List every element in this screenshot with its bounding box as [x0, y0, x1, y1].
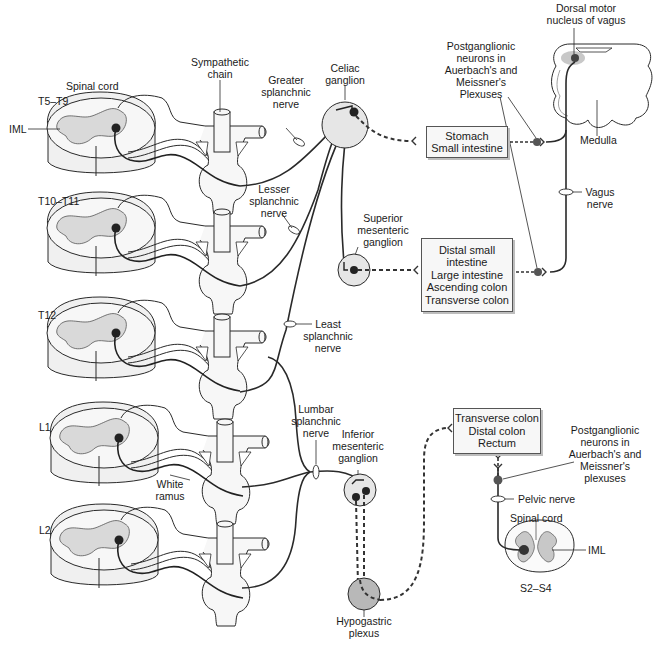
vagus-nerve-label: Vagus nerve	[580, 186, 620, 210]
label-line: splanchnic	[258, 86, 314, 98]
label-line: ganglion	[330, 452, 386, 464]
label-line: Plexuses	[440, 88, 522, 100]
postganglionic-lower-label: Postganglionic neurons in Auerbach's and…	[564, 424, 646, 484]
label-line: Greater	[258, 74, 314, 86]
label-line: Celiac	[320, 62, 370, 74]
label-line: nerve	[300, 342, 356, 354]
medulla-label: Medulla	[580, 134, 617, 146]
superior-mesenteric-label: Superior mesenteric ganglion	[355, 212, 411, 248]
sacral-spinal-cord-label: Spinal cord	[510, 512, 563, 524]
organ-label: Stomach	[427, 130, 507, 143]
inferior-mesenteric-ganglion	[344, 470, 376, 585]
label-line: ganglion	[355, 236, 411, 248]
organ-label: Rectum	[454, 437, 540, 450]
organ-label: Large intestine	[422, 269, 512, 282]
organ-label: Transverse colon	[422, 294, 512, 307]
label-line: neurons in	[564, 436, 646, 448]
lesser-splanchnic-label: Lesser splanchnic nerve	[246, 183, 302, 219]
label-line: Superior	[355, 212, 411, 224]
label-line: ramus	[150, 490, 190, 502]
hypogastric-plexus-label: Hypogastric plexus	[334, 615, 394, 639]
sympathetic-chain-label: Sympathetic chain	[190, 56, 250, 80]
inferior-mesenteric-label: Inferior mesenteric ganglion	[330, 428, 386, 464]
organ-label: Distal colon	[454, 425, 540, 438]
label-line: nerve	[580, 198, 620, 210]
segment-label-l2: L2	[39, 524, 51, 536]
label-line: ganglion	[320, 74, 370, 86]
label-line: plexus	[334, 627, 394, 639]
label-line: Sympathetic	[190, 56, 250, 68]
segment-l2	[50, 504, 269, 626]
label-line: nucleus of vagus	[540, 14, 632, 26]
sacral-segments-label: S2–S4	[520, 582, 552, 594]
organ-label: intestine	[422, 256, 512, 269]
label-line: mesenteric	[355, 224, 411, 236]
label-line: Meissner's	[440, 76, 522, 88]
greater-splanchnic-label: Greater splanchnic nerve	[258, 74, 314, 110]
label-line: Postganglionic	[564, 424, 646, 436]
segment-label-t12: T12	[38, 309, 56, 321]
spinal-cord-label: Spinal cord	[66, 80, 119, 92]
organ-label: Transverse colon	[454, 412, 540, 425]
label-line: Dorsal motor	[540, 2, 632, 14]
superior-mesenteric-ganglion	[338, 247, 418, 286]
least-splanchnic-label: Least splanchnic nerve	[300, 318, 356, 354]
label-line: Inferior	[330, 428, 386, 440]
dorsal-motor-nucleus-label: Dorsal motor nucleus of vagus	[540, 2, 632, 26]
segment-label-t5-t9: T5–T9	[38, 95, 68, 107]
white-ramus-label: White ramus	[150, 478, 190, 502]
sacral-iml-label: IML	[588, 544, 606, 556]
label-line: neurons in	[440, 52, 522, 64]
label-line: Auerbach's and	[564, 448, 646, 460]
label-line: splanchnic	[246, 195, 302, 207]
segment-label-l1: L1	[39, 421, 51, 433]
celiac-ganglion-label: Celiac ganglion	[320, 62, 370, 86]
target-distal-small-large-intestine: Distal small intestine Large intestine A…	[421, 238, 513, 312]
postganglionic-upper-label: Postganglionic neurons in Auerbach's and…	[440, 40, 522, 100]
label-line: Meissner's	[564, 460, 646, 472]
label-line: splanchnic	[300, 330, 356, 342]
label-line: Postganglionic	[440, 40, 522, 52]
pelvic-nerve-label: Pelvic nerve	[518, 493, 575, 505]
label-line: Lumbar	[288, 403, 344, 415]
segment-label-t10-t11: T10–T11	[38, 195, 79, 207]
celiac-ganglion	[322, 86, 416, 148]
iml-label: IML	[9, 123, 27, 135]
label-line: mesenteric	[330, 440, 386, 452]
sacral-spinal-cord	[505, 520, 586, 572]
organ-label: Ascending colon	[422, 281, 512, 294]
label-line: plexuses	[564, 472, 646, 484]
segment-t12	[47, 297, 266, 419]
target-stomach-small-intestine: Stomach Small intestine	[426, 126, 508, 158]
target-transverse-distal-colon-rectum: Transverse colon Distal colon Rectum	[453, 408, 541, 454]
organ-label: Distal small	[422, 244, 512, 257]
label-line: Vagus	[580, 186, 620, 198]
label-line: Least	[300, 318, 356, 330]
label-line: Auerbach's and	[440, 64, 522, 76]
label-line: Hypogastric	[334, 615, 394, 627]
label-line: chain	[190, 68, 250, 80]
label-line: White	[150, 478, 190, 490]
label-line: nerve	[246, 207, 302, 219]
label-line: Lesser	[246, 183, 302, 195]
organ-label: Small intestine	[427, 142, 507, 155]
label-line: nerve	[258, 98, 314, 110]
label-line: splanchnic	[288, 415, 344, 427]
